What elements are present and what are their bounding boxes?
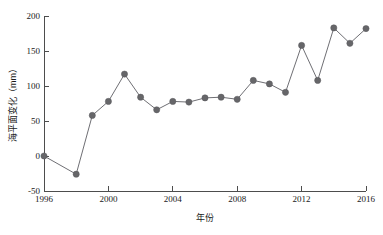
data-point [234,96,240,102]
data-point [363,26,369,32]
y-axis-title: 海平面变化（mm） [7,64,18,142]
sea-level-line-chart: 200 150 100 50 0 -50 1996 2000 2004 2008… [0,0,383,235]
y-tick-label-100: 100 [27,81,41,91]
series-markers-group [41,25,369,177]
data-point [347,40,353,46]
data-point [170,98,176,104]
y-tick-label-50: 50 [31,116,41,126]
y-axis-group: 200 150 100 50 0 -50 [27,11,50,196]
x-axis-group: 1996 2000 2004 2008 2012 2016 [35,186,376,204]
x-tick-label-2008: 2008 [228,194,247,204]
x-tick-label-2016: 2016 [357,194,376,204]
y-tick-label-0: 0 [36,151,41,161]
x-tick-label-1996: 1996 [35,194,54,204]
data-point [89,112,95,118]
x-tick-label-2000: 2000 [99,194,118,204]
data-point [121,71,127,77]
data-point [138,94,144,100]
data-point [299,42,305,48]
y-tick-label-200: 200 [27,11,41,21]
x-tick-label-2012: 2012 [293,194,311,204]
chart-canvas: 200 150 100 50 0 -50 1996 2000 2004 2008… [0,0,383,235]
data-point [154,107,160,113]
data-point [282,89,288,95]
data-point [73,171,79,177]
data-point [250,77,256,83]
x-tick-label-2004: 2004 [164,194,183,204]
data-point [202,95,208,101]
data-point [331,25,337,31]
data-point [105,98,111,104]
data-point [186,99,192,105]
x-axis-title: 年份 [196,212,214,223]
data-point [315,77,321,83]
data-point [218,94,224,100]
y-tick-label-150: 150 [27,46,41,56]
data-point [41,153,47,159]
data-point [266,81,272,87]
